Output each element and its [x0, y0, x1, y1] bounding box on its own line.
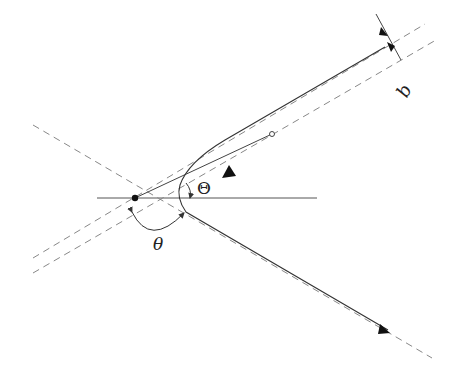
impact-arrow-up-icon — [387, 42, 395, 52]
scattering-diagram — [0, 0, 461, 380]
incoming-asymptote-upper — [33, 24, 425, 258]
label-Theta: Θ — [197, 178, 211, 198]
particle-open-circle — [270, 132, 275, 137]
scattering-angle-arc — [132, 212, 184, 230]
incoming-asymptote-lower — [33, 40, 436, 273]
scattering-center — [132, 195, 138, 201]
half-angle-arc — [186, 183, 191, 198]
impact-parameter-line — [376, 14, 401, 60]
label-theta: θ — [153, 234, 163, 254]
incoming-arrow-icon — [222, 165, 236, 178]
outgoing-asymptote — [33, 125, 432, 358]
outgoing-arrow-icon — [378, 324, 390, 334]
